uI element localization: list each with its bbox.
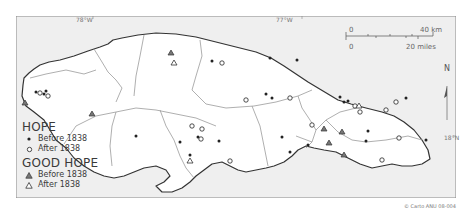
legend-good-hope-after: After 1838 (22, 180, 98, 190)
legend-good-hope-title: GOOD HOPE (22, 156, 98, 170)
legend-hope-title: HOPE (22, 120, 98, 134)
map-credit: © Carto ANU 08-004 (404, 203, 456, 209)
legend-hope-after: After 1838 (22, 144, 98, 154)
legend-good-hope-before: Before 1838 (22, 170, 98, 180)
filled-triangle-icon (22, 172, 36, 179)
longitude-label-77w: 77°W (276, 16, 293, 23)
open-triangle-icon (22, 182, 36, 189)
scale-mi-max: 20 miles (406, 43, 436, 51)
open-circle-icon (22, 146, 36, 153)
longitude-label-78w: 78°W (76, 16, 93, 23)
north-label: N (444, 64, 450, 73)
scale-km-zero: 0 (349, 26, 353, 34)
map-legend: HOPE Before 1838 After 1838 GOOD HOPE Be… (22, 120, 98, 190)
scale-mi-zero: 0 (349, 43, 353, 51)
filled-dot-icon (22, 136, 36, 142)
scale-km-max: 40 km (420, 26, 442, 34)
legend-hope-before: Before 1838 (22, 134, 98, 144)
latitude-label-18n: 18°N (444, 134, 459, 141)
